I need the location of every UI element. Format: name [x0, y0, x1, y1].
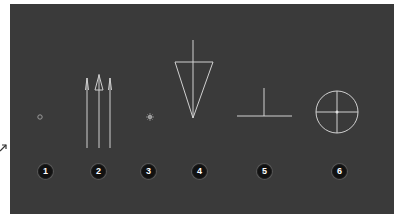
- inverted-triangle-icon: [170, 38, 220, 120]
- number-badge-2: 2: [91, 164, 106, 179]
- number-badge-3: 3: [141, 164, 156, 179]
- small-star-icon: [144, 111, 156, 123]
- pointer-arrow-icon: [0, 143, 8, 153]
- small-circle-icon: [35, 112, 45, 122]
- three-arrows-icon: [80, 72, 120, 152]
- inverted-t-icon: [234, 86, 296, 118]
- number-badge-6: 6: [332, 164, 347, 179]
- circle-crosshair-icon: [313, 88, 361, 136]
- number-badge-5: 5: [257, 164, 272, 179]
- number-badge-4: 4: [192, 164, 207, 179]
- number-badge-1: 1: [38, 164, 53, 179]
